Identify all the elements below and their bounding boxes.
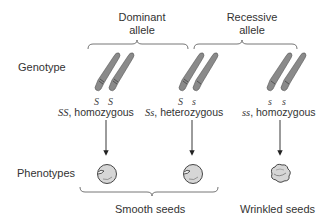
chromosome-pair-SS — [95, 53, 134, 91]
genotype-ss-homozygous-recessive: ss, homozygous — [242, 106, 316, 118]
recessive-header-line2: allele — [222, 24, 282, 37]
genotype-description: , homozygous — [250, 106, 315, 118]
smooth-seeds-brace — [80, 187, 218, 196]
dominant-header-line2: allele — [112, 24, 172, 37]
wrinkled-seed-icon — [271, 164, 290, 182]
smooth-seed-icon — [184, 165, 203, 184]
recessive-brace — [194, 40, 297, 49]
smooth-seeds-label: Smooth seeds — [115, 203, 185, 215]
chromosome-pair-Ss — [179, 53, 218, 91]
genotype-symbol: Ss — [145, 107, 154, 118]
genotype-heterozygous: Ss, heterozygous — [145, 106, 223, 118]
genotype-description: , heterozygous — [154, 106, 223, 118]
phenotypes-label: Phenotypes — [17, 167, 75, 179]
smooth-seed-icon — [98, 165, 117, 184]
dominant-allele-header: Dominant allele — [112, 11, 172, 37]
genotype-symbol: SS — [58, 107, 69, 118]
recessive-allele-header: Recessive allele — [222, 11, 282, 37]
genotype-symbol: ss — [242, 107, 250, 118]
wrinkled-seeds-label: Wrinkled seeds — [240, 203, 315, 215]
recessive-header-line1: Recessive — [222, 11, 282, 24]
dominant-header-line1: Dominant — [112, 11, 172, 24]
dominant-brace — [88, 40, 188, 49]
genotype-description: , homozygous — [69, 106, 134, 118]
chromosome-pair-ss — [267, 53, 306, 91]
genotype-ss-homozygous-dominant: SS, homozygous — [58, 106, 134, 118]
genotype-label: Genotype — [18, 61, 66, 73]
